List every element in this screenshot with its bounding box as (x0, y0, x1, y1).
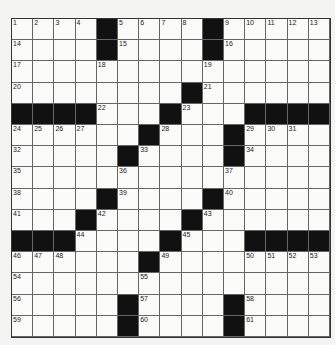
grid-cell[interactable] (54, 146, 75, 167)
grid-cell[interactable]: 14 (12, 40, 33, 61)
grid-cell[interactable] (76, 61, 97, 82)
grid-cell[interactable] (309, 316, 330, 337)
grid-cell[interactable] (160, 295, 181, 316)
grid-cell[interactable] (203, 125, 224, 146)
grid-cell[interactable] (139, 231, 160, 252)
grid-cell[interactable] (309, 40, 330, 61)
grid-cell[interactable] (266, 167, 287, 188)
grid-cell[interactable] (266, 61, 287, 82)
grid-cell[interactable] (288, 83, 309, 104)
grid-cell[interactable]: 20 (12, 83, 33, 104)
grid-cell[interactable] (182, 252, 203, 273)
grid-cell[interactable]: 59 (12, 316, 33, 337)
grid-cell[interactable] (203, 273, 224, 294)
grid-cell[interactable] (33, 40, 54, 61)
grid-cell[interactable]: 56 (12, 295, 33, 316)
grid-cell[interactable] (33, 61, 54, 82)
grid-cell[interactable] (266, 316, 287, 337)
grid-cell[interactable]: 15 (118, 40, 139, 61)
grid-cell[interactable] (139, 189, 160, 210)
grid-cell[interactable] (245, 210, 266, 231)
grid-cell[interactable] (288, 146, 309, 167)
grid-cell[interactable]: 26 (54, 125, 75, 146)
grid-cell[interactable] (182, 61, 203, 82)
grid-cell[interactable] (224, 61, 245, 82)
grid-cell[interactable]: 45 (182, 231, 203, 252)
grid-cell[interactable] (97, 273, 118, 294)
grid-cell[interactable]: 3 (54, 19, 75, 40)
grid-cell[interactable] (224, 104, 245, 125)
grid-cell[interactable] (182, 189, 203, 210)
grid-cell[interactable] (182, 316, 203, 337)
grid-cell[interactable]: 33 (139, 146, 160, 167)
grid-cell[interactable] (266, 40, 287, 61)
grid-cell[interactable] (76, 189, 97, 210)
grid-cell[interactable] (76, 273, 97, 294)
grid-cell[interactable] (160, 167, 181, 188)
grid-cell[interactable] (309, 83, 330, 104)
grid-cell[interactable] (118, 104, 139, 125)
grid-cell[interactable] (224, 210, 245, 231)
grid-cell[interactable] (245, 83, 266, 104)
grid-cell[interactable]: 34 (245, 146, 266, 167)
grid-cell[interactable]: 39 (118, 189, 139, 210)
grid-cell[interactable] (97, 231, 118, 252)
grid-cell[interactable] (288, 189, 309, 210)
grid-cell[interactable] (160, 189, 181, 210)
grid-cell[interactable] (203, 316, 224, 337)
grid-cell[interactable] (118, 125, 139, 146)
grid-cell[interactable] (118, 231, 139, 252)
grid-cell[interactable] (203, 167, 224, 188)
grid-cell[interactable] (309, 61, 330, 82)
grid-cell[interactable] (139, 61, 160, 82)
grid-cell[interactable]: 9 (224, 19, 245, 40)
grid-cell[interactable]: 52 (288, 252, 309, 273)
grid-cell[interactable] (266, 189, 287, 210)
grid-cell[interactable] (224, 252, 245, 273)
grid-cell[interactable]: 24 (12, 125, 33, 146)
grid-cell[interactable] (203, 104, 224, 125)
grid-cell[interactable]: 35 (12, 167, 33, 188)
grid-cell[interactable] (97, 316, 118, 337)
grid-cell[interactable] (266, 273, 287, 294)
grid-cell[interactable]: 8 (182, 19, 203, 40)
grid-cell[interactable] (182, 146, 203, 167)
grid-cell[interactable] (160, 61, 181, 82)
grid-cell[interactable]: 11 (266, 19, 287, 40)
grid-cell[interactable] (160, 83, 181, 104)
grid-cell[interactable]: 58 (245, 295, 266, 316)
grid-cell[interactable] (224, 83, 245, 104)
grid-cell[interactable] (266, 295, 287, 316)
grid-cell[interactable]: 30 (266, 125, 287, 146)
grid-cell[interactable] (245, 273, 266, 294)
grid-cell[interactable]: 27 (76, 125, 97, 146)
grid-cell[interactable]: 1 (12, 19, 33, 40)
grid-cell[interactable] (160, 146, 181, 167)
grid-cell[interactable] (76, 146, 97, 167)
grid-cell[interactable] (245, 189, 266, 210)
grid-cell[interactable] (97, 125, 118, 146)
grid-cell[interactable] (33, 295, 54, 316)
grid-cell[interactable] (54, 189, 75, 210)
grid-cell[interactable] (33, 83, 54, 104)
grid-cell[interactable] (76, 316, 97, 337)
grid-cell[interactable] (245, 61, 266, 82)
grid-cell[interactable] (160, 210, 181, 231)
grid-cell[interactable] (182, 273, 203, 294)
grid-cell[interactable]: 47 (33, 252, 54, 273)
grid-cell[interactable]: 55 (139, 273, 160, 294)
grid-cell[interactable] (139, 210, 160, 231)
grid-cell[interactable]: 4 (76, 19, 97, 40)
grid-cell[interactable]: 32 (12, 146, 33, 167)
grid-cell[interactable] (203, 252, 224, 273)
grid-cell[interactable] (288, 316, 309, 337)
grid-cell[interactable]: 22 (97, 104, 118, 125)
grid-cell[interactable]: 18 (97, 61, 118, 82)
grid-cell[interactable] (118, 210, 139, 231)
grid-cell[interactable]: 41 (12, 210, 33, 231)
grid-cell[interactable] (139, 104, 160, 125)
grid-cell[interactable]: 57 (139, 295, 160, 316)
grid-cell[interactable] (203, 231, 224, 252)
grid-cell[interactable] (266, 210, 287, 231)
grid-cell[interactable] (97, 167, 118, 188)
